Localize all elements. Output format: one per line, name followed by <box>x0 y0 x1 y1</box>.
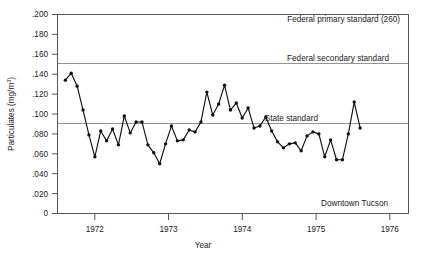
data-point <box>311 130 314 133</box>
plot-frame <box>58 15 409 214</box>
x-tick-label: 1973 <box>159 225 178 234</box>
svg-text:Particulates (mg/m3): Particulates (mg/m3) <box>6 77 16 151</box>
y-tick-label: .140 <box>32 70 48 79</box>
data-point <box>81 108 84 111</box>
data-point <box>258 124 261 127</box>
data-point <box>199 120 202 123</box>
particulates-line-chart: .200 .180 .160 .140 .120 .100 .080 .060 … <box>0 0 424 265</box>
data-point <box>305 134 308 137</box>
y-axis-tick-labels: .200 .180 .160 .140 .120 .100 .080 .060 … <box>32 10 48 218</box>
data-point <box>276 140 279 143</box>
data-point <box>134 120 137 123</box>
data-point <box>140 120 143 123</box>
data-point <box>317 132 320 135</box>
data-point <box>111 127 114 130</box>
data-point <box>241 116 244 119</box>
data-point <box>75 84 78 87</box>
x-axis-ticks <box>95 214 390 221</box>
data-point <box>270 129 273 132</box>
federal-primary-standard-label: Federal primary standard (260) <box>287 15 400 24</box>
data-point <box>282 146 285 149</box>
data-point <box>323 155 326 158</box>
x-axis-title: Year <box>195 241 212 250</box>
data-point <box>152 151 155 154</box>
x-tick-label: 1976 <box>381 225 400 234</box>
data-point <box>353 100 356 103</box>
y-axis-title-text: Particulates (mg/m <box>7 83 16 151</box>
data-point <box>99 129 102 132</box>
data-point <box>64 78 67 81</box>
state-standard-label: State standard <box>265 114 319 123</box>
data-point <box>170 124 173 127</box>
y-tick-label: .120 <box>32 90 48 99</box>
data-point <box>205 90 208 93</box>
x-tick-label: 1972 <box>86 225 105 234</box>
data-point <box>235 101 238 104</box>
y-axis-title-paren: ) <box>7 77 16 80</box>
data-point <box>299 149 302 152</box>
chart-figure: .200 .180 .160 .140 .120 .100 .080 .060 … <box>0 0 424 265</box>
y-tick-label: .020 <box>32 190 48 199</box>
y-tick-label: .200 <box>32 10 48 19</box>
data-point <box>329 138 332 141</box>
data-point <box>193 130 196 133</box>
data-point <box>288 142 291 145</box>
y-tick-label: .100 <box>32 110 48 119</box>
data-point <box>93 155 96 158</box>
data-point <box>176 139 179 142</box>
data-point <box>105 139 108 142</box>
data-point <box>164 142 167 145</box>
y-tick-label: .040 <box>32 170 48 179</box>
y-tick-label: .080 <box>32 130 48 139</box>
data-point <box>264 115 267 118</box>
data-point <box>123 114 126 117</box>
data-point <box>341 158 344 161</box>
data-point <box>187 128 190 131</box>
data-point <box>347 132 350 135</box>
data-point <box>252 126 255 129</box>
data-point <box>70 72 73 75</box>
data-point <box>182 138 185 141</box>
y-tick-label: .060 <box>32 150 48 159</box>
x-tick-label: 1974 <box>233 225 252 234</box>
data-point <box>217 102 220 105</box>
y-tick-label: .180 <box>32 30 48 39</box>
y-tick-label: 0 <box>43 209 48 218</box>
y-tick-label: .160 <box>32 50 48 59</box>
data-point <box>229 108 232 111</box>
data-point <box>211 113 214 116</box>
data-point <box>129 131 132 134</box>
data-point <box>223 83 226 86</box>
data-point <box>246 106 249 109</box>
federal-secondary-standard-label: Federal secondary standard <box>287 54 389 63</box>
data-point <box>294 141 297 144</box>
data-point <box>158 162 161 165</box>
data-point <box>117 143 120 146</box>
data-point <box>358 126 361 129</box>
y-axis-title: Particulates (mg/m3) <box>6 77 16 151</box>
data-point <box>335 158 338 161</box>
data-point <box>146 143 149 146</box>
x-axis-tick-labels: 1972 1973 1974 1975 1976 <box>86 225 400 234</box>
x-tick-label: 1975 <box>307 225 326 234</box>
location-annotation: Downtown Tucson <box>321 199 388 208</box>
data-point <box>87 133 90 136</box>
